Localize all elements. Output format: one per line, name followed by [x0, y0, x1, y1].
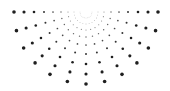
halftone-dot: [12, 10, 16, 14]
halftone-dot: [89, 23, 90, 24]
halftone-dot: [89, 17, 90, 18]
halftone-dot: [135, 61, 139, 65]
halftone-dot: [71, 61, 74, 64]
halftone-dot: [53, 64, 56, 67]
halftone-dot: [137, 11, 140, 14]
halftone-dot: [106, 47, 108, 49]
halftone-dot: [94, 27, 95, 28]
halftone-dot: [156, 10, 160, 14]
halftone-dot: [121, 32, 123, 34]
halftone-dot: [85, 29, 86, 30]
halftone-dot: [84, 82, 88, 86]
halftone-dot: [80, 15, 81, 16]
halftone-dot: [41, 54, 44, 57]
halftone-dot: [92, 35, 93, 36]
halftone-dot: [81, 29, 82, 30]
halftone-dot: [64, 47, 66, 49]
halftone-dot: [114, 28, 116, 30]
halftone-dot: [25, 27, 28, 30]
halftone-dot: [127, 11, 129, 13]
halftone-dot: [55, 41, 57, 43]
halftone-dot: [128, 54, 131, 57]
halftone-dot: [115, 41, 117, 43]
halftone-dot: [60, 11, 61, 12]
halftone-dot: [66, 80, 70, 84]
halftone-dot: [102, 40, 104, 42]
halftone-dot: [68, 29, 69, 30]
halftone-dot: [110, 11, 111, 12]
halftone-dot: [49, 32, 51, 34]
halftone-dot: [80, 22, 81, 23]
halftone-dot: [91, 13, 92, 14]
halftone-dot: [33, 61, 37, 65]
halftone-dot: [135, 24, 138, 27]
halftone-dot: [96, 18, 97, 19]
halftone-dot: [94, 20, 95, 21]
halftone-dot: [53, 20, 55, 22]
halftone-dot: [144, 27, 147, 30]
halftone-dot: [83, 17, 84, 18]
halftone-dot: [69, 40, 71, 42]
halftone-dot: [75, 18, 76, 19]
halftone-dot: [98, 61, 101, 64]
halftone-dot: [115, 64, 118, 67]
halftone-dot: [146, 10, 149, 13]
halftone-dot: [130, 37, 133, 40]
halftone-dot: [85, 36, 86, 37]
halftone-dot: [68, 70, 71, 73]
halftone-dot: [84, 17, 85, 18]
halftone-dot: [107, 24, 108, 25]
halftone-dot: [44, 22, 46, 24]
halftone-dot: [138, 41, 141, 44]
halftone-dot: [120, 73, 124, 77]
halftone-dot: [92, 22, 93, 23]
halftone-dot: [70, 20, 71, 21]
halftone-dot: [101, 20, 102, 21]
halftone-dot: [62, 34, 64, 36]
halftone-dot: [73, 24, 74, 25]
halftone-dot: [43, 11, 45, 13]
halftone-dot: [92, 12, 93, 13]
halftone-dot: [108, 34, 110, 36]
halftone-dot: [90, 16, 91, 17]
halftone-dot: [80, 12, 81, 13]
halftone-dot: [77, 20, 78, 21]
sunburst-dots: [12, 10, 160, 86]
halftone-dot: [98, 33, 99, 34]
halftone-dot: [67, 11, 68, 12]
halftone-dot: [34, 24, 37, 27]
halftone-dot: [111, 56, 114, 59]
halftone-dot: [22, 46, 26, 50]
halftone-dot: [118, 11, 120, 13]
halftone-dot: [84, 72, 87, 75]
halftone-dot: [40, 37, 43, 40]
halftone-dot: [86, 24, 87, 25]
halftone-dot: [86, 18, 87, 19]
halftone-dot: [98, 24, 99, 25]
halftone-dot: [121, 47, 124, 50]
halftone-dot: [91, 15, 92, 16]
halftone-dot: [94, 43, 96, 45]
halftone-dot: [79, 35, 80, 36]
halftone-dot: [117, 20, 119, 22]
halftone-dot: [85, 53, 87, 55]
halftone-dot: [87, 17, 88, 18]
halftone-dot: [33, 11, 36, 14]
halftone-dot: [61, 18, 62, 19]
halftone-dot: [77, 43, 79, 45]
halftone-dot: [22, 10, 25, 13]
halftone-dot: [96, 52, 98, 54]
halftone-dot: [52, 11, 54, 13]
halftone-dot: [103, 16, 104, 17]
halftone-dot: [101, 70, 104, 73]
halftone-dot: [97, 15, 98, 16]
halftone-dot: [80, 13, 81, 14]
halftone-dot: [147, 46, 151, 50]
halftone-dot: [90, 29, 91, 30]
halftone-dot: [68, 16, 69, 17]
halftone-dot: [154, 29, 158, 33]
halftone-dot: [76, 27, 77, 28]
halftone-dot: [64, 24, 65, 25]
halftone-dot: [15, 29, 19, 33]
halftone-dot: [48, 47, 51, 50]
